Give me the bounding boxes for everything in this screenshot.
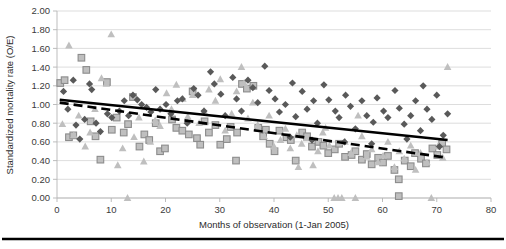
series-square-marker-59 [368,161,375,168]
series-square-marker-23 [179,127,186,134]
x-tick-label-4: 40 [269,204,280,215]
series-square-marker-4 [78,54,85,61]
series-square-marker-7 [92,133,99,140]
y-tick-label-2: 0.40 [32,155,51,166]
x-tick-label-1: 10 [106,204,117,215]
x-tick-label-6: 60 [377,204,388,215]
series-square-marker-32 [224,136,231,143]
series-square-marker-27 [197,141,204,148]
y-tick-label-6: 1.20 [32,80,51,91]
series-square-marker-8 [97,156,104,163]
y-tick-label-10: 2.00 [32,5,51,16]
series-square-marker-5 [83,67,90,74]
y-tick-label-9: 1.80 [32,24,51,35]
series-square-marker-40 [266,140,273,147]
series-square-marker-51 [325,150,332,157]
series-square-marker-73 [443,146,450,153]
series-square-marker-50 [320,142,327,149]
series-square-marker-45 [292,157,299,164]
series-square-marker-26 [194,135,201,142]
series-square-marker-12 [120,129,127,136]
x-tick-label-0: 0 [54,204,59,215]
series-square-marker-66 [407,163,414,170]
y-tick-label-7: 1.40 [32,62,51,73]
series-square-marker-48 [309,143,316,150]
series-square-marker-75 [233,157,240,164]
series-square-marker-10 [108,126,115,133]
x-tick-label-3: 30 [214,204,225,215]
x-tick-label-5: 50 [323,204,334,215]
series-square-marker-34 [234,129,241,136]
x-axis-title: Months of observation (1-Jan 2005) [199,219,349,230]
series-square-marker-74 [395,193,402,200]
y-tick-label-4: 0.80 [32,118,51,129]
y-axis-title: Standardized mortality rate (O/E) [4,36,15,175]
x-tick-label-8: 80 [486,204,497,215]
series-square-marker-20 [162,145,169,152]
series-square-marker-29 [206,129,213,136]
series-square-marker-54 [342,154,349,161]
y-axis-tick-labels: 0.000.200.400.600.801.001.201.401.601.80… [32,5,51,203]
series-square-marker-15 [136,143,143,150]
y-tick-label-1: 0.20 [32,174,51,185]
series-square-marker-31 [217,141,224,148]
series-square-marker-1 [61,77,68,84]
y-tick-label-8: 1.60 [32,43,51,54]
series-square-marker-36 [244,85,251,92]
series-square-marker-13 [125,121,132,128]
y-tick-label-3: 0.60 [32,136,51,147]
x-tick-label-7: 70 [431,204,442,215]
y-tick-label-0: 0.00 [32,192,51,203]
scatter-chart: 0.000.200.400.600.801.001.201.401.601.80… [0,0,506,249]
x-tick-label-2: 20 [160,204,171,215]
series-square-marker-64 [395,176,402,183]
y-tick-label-5: 1.00 [32,99,51,110]
series-square-marker-24 [186,131,193,138]
chart-figure: 0.000.200.400.600.801.001.201.401.601.80… [0,0,506,249]
